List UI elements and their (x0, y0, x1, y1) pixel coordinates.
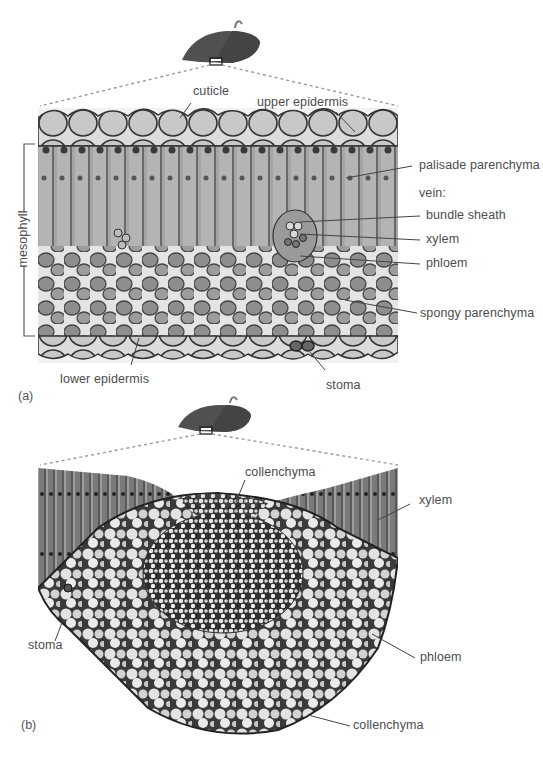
label-palisade-parenchyma: palisade parenchyma (419, 158, 540, 172)
label-stoma-a: stoma (326, 378, 361, 392)
label-spongy-parenchyma: spongy parenchyma (420, 306, 534, 320)
micrograph-midrib-cross-section (38, 468, 398, 738)
label-vein: vein: (419, 186, 446, 200)
label-stoma-b: stoma (28, 638, 63, 652)
panel-letter-b: (b) (21, 718, 36, 732)
label-phloem-b: phloem (420, 650, 462, 664)
micrograph-leaf-cross-section (38, 108, 398, 363)
leaf-icon-a (182, 21, 260, 65)
label-collenchyma-bottom: collenchyma (353, 718, 424, 732)
label-xylem-b: xylem (419, 493, 452, 507)
label-lower-epidermis: lower epidermis (60, 372, 149, 386)
label-bundle-sheath: bundle sheath (426, 208, 506, 222)
leaf-icon-b (178, 397, 251, 434)
label-upper-epidermis: upper epidermis (257, 95, 348, 109)
label-cuticle: cuticle (193, 84, 229, 98)
label-xylem-a: xylem (426, 232, 459, 246)
label-phloem-a: phloem (426, 256, 468, 270)
label-collenchyma-top: collenchyma (245, 465, 316, 479)
mesophyll-label: mesophyll (16, 209, 30, 269)
panel-letter-a: (a) (18, 389, 33, 403)
